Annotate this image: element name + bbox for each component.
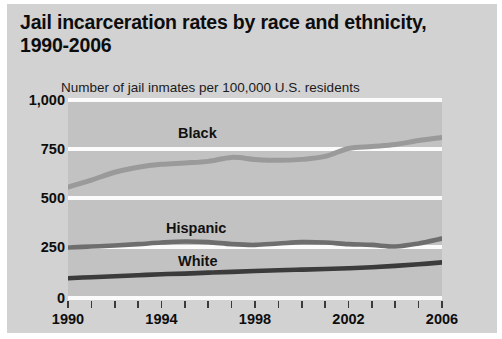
x-axis-labels: 1990 1994 1998 2002 2006 <box>68 311 442 331</box>
y-axis-labels: 1,000 750 500 250 0 <box>7 4 65 333</box>
x-tick-2006 <box>441 301 443 308</box>
x-tick-1999 <box>278 301 280 308</box>
x-tick-label-1994: 1994 <box>145 311 177 327</box>
x-tick-2004 <box>394 301 396 308</box>
y-tick-label-250: 250 <box>13 239 65 255</box>
x-axis-ticks <box>68 301 442 309</box>
x-tick-2003 <box>371 301 373 308</box>
line-black-series <box>68 138 442 188</box>
x-tick-label-1998: 1998 <box>239 311 271 327</box>
x-tick-label-2006: 2006 <box>426 311 458 327</box>
series-label-white: White <box>178 253 217 269</box>
y-tick-label-750: 750 <box>13 141 65 157</box>
series-lines <box>68 98 442 296</box>
x-tick-2001 <box>324 301 326 308</box>
axis-line-bottom <box>68 296 442 300</box>
plot-area <box>68 98 442 296</box>
x-tick-label-1990: 1990 <box>52 311 84 327</box>
chart-figure: Jail incarceration rates by race and eth… <box>0 0 502 339</box>
line-hispanic-series <box>68 239 442 248</box>
x-tick-1993 <box>137 301 139 308</box>
x-tick-1997 <box>231 301 233 308</box>
x-tick-1990 <box>67 301 69 308</box>
x-tick-2002 <box>348 301 350 308</box>
series-label-black: Black <box>178 125 217 141</box>
series-label-hispanic: Hispanic <box>166 220 226 236</box>
x-tick-1994 <box>161 301 163 308</box>
chart-subtitle: Number of jail inmates per 100,000 U.S. … <box>61 80 360 95</box>
x-tick-1991 <box>91 301 93 308</box>
x-tick-1998 <box>254 301 256 308</box>
x-tick-1995 <box>184 301 186 308</box>
line-white-series <box>68 262 442 278</box>
x-tick-1992 <box>114 301 116 308</box>
chart-canvas: Jail incarceration rates by race and eth… <box>7 4 497 333</box>
x-tick-1996 <box>207 301 209 308</box>
x-tick-2000 <box>301 301 303 308</box>
y-tick-label-0: 0 <box>13 290 65 306</box>
x-tick-label-2002: 2002 <box>332 311 364 327</box>
chart-title: Jail incarceration rates by race and eth… <box>20 11 480 57</box>
y-tick-label-1000: 1,000 <box>13 92 65 108</box>
y-tick-label-500: 500 <box>13 190 65 206</box>
x-tick-2005 <box>418 301 420 308</box>
